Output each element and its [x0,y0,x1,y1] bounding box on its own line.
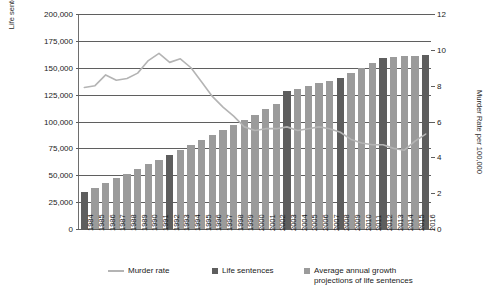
y-axis-right-tick-label: 4 [437,153,459,162]
x-axis-tick-label: 1992 [172,214,181,231]
legend-label: Life sentences [222,266,274,276]
y-axis-left-tick-label: 150,000 [15,63,73,72]
y-axis-left-tickmark [76,229,79,230]
x-axis-tick-label: 2012 [385,214,394,231]
x-axis-tick-label: 1997 [225,214,234,231]
x-axis-tick-label: 2008 [342,214,351,231]
x-axis-tick-label: 2001 [268,214,277,231]
y-axis-right-tickmark [431,86,435,87]
legend-item-murder-rate: Murder rate [108,266,169,276]
line-marker-icon [108,270,124,272]
x-axis-tick-label: 2015 [417,214,426,231]
y-axis-right-title: Murder Rate per 100,000 [475,72,484,192]
legend-label: Average annual growth projections of lif… [314,266,413,286]
x-axis-tick-label: 1988 [129,214,138,231]
x-axis-tick-label: 2010 [364,214,373,231]
x-axis-tick-label: 1993 [182,214,191,231]
x-axis-tick-label: 1999 [246,214,255,231]
y-axis-right-tickmark [431,50,435,51]
x-axis-tick-label: 1995 [204,214,213,231]
x-axis-tick-label: 1987 [118,214,127,231]
legend-item-projections: Average annual growth projections of lif… [304,266,413,286]
y-axis-left-tick-label: 50,000 [15,171,73,180]
y-axis-left-tick-label: 175,000 [15,36,73,45]
x-axis-tick-label: 1986 [108,214,117,231]
x-axis-tick-label: 2009 [353,214,362,231]
x-axis-tick-label: 1994 [193,214,202,231]
x-axis-tick-label: 2004 [300,214,309,231]
y-axis-right-tickmark [431,157,435,158]
x-axis-tick-label: 2000 [257,214,266,231]
x-axis-labels: 1984198519861987198819891990199119921993… [78,231,430,271]
x-axis-tick-label: 1984 [86,214,95,231]
x-axis-tick-label: 2014 [406,214,415,231]
y-axis-right-tick-label: 6 [437,117,459,126]
x-axis-tick-label: 1985 [97,214,106,231]
legend-item-life-sentences: Life sentences [212,266,274,276]
square-marker-icon [212,268,218,274]
y-axis-left-tick-label: 25,000 [15,198,73,207]
y-axis-left-ticks: 025,00050,00075,000100,000125,000150,000… [13,0,73,295]
x-axis-tick-label: 1998 [236,214,245,231]
x-axis-tick-label: 2002 [278,214,287,231]
y-axis-left-tick-label: 200,000 [15,10,73,19]
legend-label: Murder rate [128,266,169,276]
y-axis-right-tick-label: 8 [437,81,459,90]
x-axis-tick-label: 1990 [150,214,159,231]
y-axis-right-tick-label: 12 [437,10,459,19]
y-axis-right-tickmark [431,122,435,123]
x-axis-tick-label: 2013 [396,214,405,231]
y-axis-left-tick-label: 125,000 [15,90,73,99]
x-axis-tick-label: 2005 [310,214,319,231]
x-axis-tick-label: 1989 [140,214,149,231]
y-axis-left-tick-label: 75,000 [15,144,73,153]
y-axis-right-tickmark [431,14,435,15]
plot-area [78,14,430,229]
chart-figure: Life sentences 025,00050,00075,000100,00… [0,0,501,295]
x-axis-tick-label: 2006 [321,214,330,231]
y-axis-left-tick-label: 100,000 [15,117,73,126]
y-axis-right-tick-label: 2 [437,189,459,198]
y-axis-right-tick-label: 0 [437,225,459,234]
x-axis-tick-label: 2007 [332,214,341,231]
x-axis-tick-label: 1996 [214,214,223,231]
x-axis-tick-label: 2016 [428,214,437,231]
y-axis-right-tick-label: 10 [437,45,459,54]
square-marker-icon [304,268,310,274]
y-axis-right-tickmark [431,193,435,194]
x-axis-tick-label: 2003 [289,214,298,231]
x-axis-tick-label: 1991 [161,214,170,231]
y-axis-left-tick-label: 0 [15,225,73,234]
y-axis-right-ticks: 024681012 [437,0,463,295]
x-axis-tick-label: 2011 [374,215,383,231]
murder-rate-line [79,14,431,229]
